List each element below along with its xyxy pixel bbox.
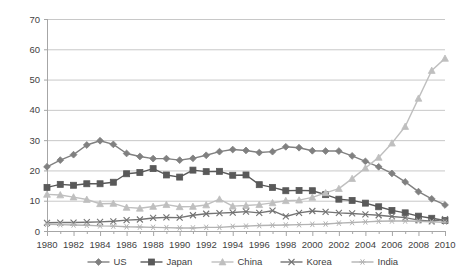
marker-square <box>190 167 196 173</box>
marker-square <box>110 179 116 185</box>
x-axis-tick-label: 2010 <box>434 239 455 250</box>
marker-square <box>44 184 50 190</box>
x-axis-tick-label: 1986 <box>116 239 137 250</box>
plot-background <box>47 19 445 231</box>
x-axis-tick-label: 1990 <box>169 239 190 250</box>
x-axis-tick-label: 2002 <box>328 239 349 250</box>
legend-item-us[interactable]: US <box>88 256 127 267</box>
x-axis-tick-label: 1982 <box>63 239 84 250</box>
marker-square <box>309 188 315 194</box>
marker-square <box>349 197 355 203</box>
legend-item-china[interactable]: China <box>212 256 264 267</box>
legend-item-japan[interactable]: Japan <box>141 256 193 267</box>
marker-square <box>163 172 169 178</box>
x-axis-tick-label: 2000 <box>302 239 323 250</box>
x-axis-tick-label: 1988 <box>143 239 164 250</box>
y-axis-tick-label: 70 <box>29 14 40 25</box>
y-axis-tick-label: 50 <box>29 74 40 85</box>
marker-diamond <box>95 259 102 266</box>
marker-square <box>203 169 209 175</box>
marker-square <box>216 168 222 174</box>
marker-square <box>336 196 342 202</box>
y-axis-tick-label: 60 <box>29 44 40 55</box>
x-axis-tick-label: 2006 <box>381 239 402 250</box>
legend-item-india[interactable]: India <box>352 256 399 267</box>
marker-square <box>137 170 143 176</box>
legend-label-us: US <box>114 256 127 267</box>
marker-square <box>362 200 368 206</box>
line-chart: 0102030405060701980198219841986198819901… <box>0 0 460 278</box>
marker-square <box>230 172 236 178</box>
marker-square <box>57 181 63 187</box>
x-axis-tick-label: 1994 <box>222 239 243 250</box>
marker-square <box>84 181 90 187</box>
marker-square <box>149 259 155 265</box>
legend-label-korea: Korea <box>307 256 333 267</box>
y-axis-tick-label: 20 <box>29 165 40 176</box>
marker-square <box>243 172 249 178</box>
x-axis-tick-label: 1996 <box>249 239 270 250</box>
y-axis-tick-label: 10 <box>29 195 40 206</box>
marker-square <box>296 187 302 193</box>
marker-square <box>124 171 130 177</box>
marker-square <box>256 182 262 188</box>
marker-square <box>283 188 289 194</box>
y-axis-tick-label: 40 <box>29 104 40 115</box>
legend-label-japan: Japan <box>167 256 193 267</box>
marker-square <box>389 207 395 213</box>
chart-canvas: 0102030405060701980198219841986198819901… <box>0 0 460 278</box>
marker-square <box>150 166 156 172</box>
marker-square <box>270 184 276 190</box>
x-axis-tick-label: 1992 <box>196 239 217 250</box>
x-axis-tick-label: 1984 <box>89 239 110 250</box>
marker-square <box>376 204 382 210</box>
x-axis-tick-label: 1980 <box>36 239 57 250</box>
x-axis-tick-label: 2004 <box>355 239 376 250</box>
x-axis-tick-label: 2008 <box>408 239 429 250</box>
legend-label-china: China <box>238 256 264 267</box>
legend-item-korea[interactable]: Korea <box>281 256 333 267</box>
y-axis-tick-label: 0 <box>35 226 40 237</box>
y-axis-tick-label: 30 <box>29 135 40 146</box>
chart-legend: USJapanChinaKoreaIndia <box>88 256 399 267</box>
marker-square <box>97 181 103 187</box>
x-axis-tick-label: 1998 <box>275 239 296 250</box>
marker-square <box>177 174 183 180</box>
legend-label-india: India <box>378 256 399 267</box>
marker-square <box>71 182 77 188</box>
